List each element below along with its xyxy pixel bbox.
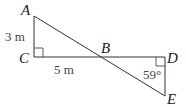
label-c: C [19, 50, 30, 66]
measure-ac: 3 m [5, 29, 25, 44]
label-b: B [101, 40, 110, 56]
label-a: A [20, 2, 31, 18]
right-angle-marker-d [156, 57, 165, 66]
label-e: E [166, 91, 176, 107]
label-d: D [166, 50, 178, 66]
triangle-diagram: A B C D E 3 m 5 m 59° [0, 0, 186, 107]
segment-ae [34, 16, 165, 96]
measure-cb: 5 m [54, 62, 74, 77]
measure-angle-e: 59° [143, 67, 161, 82]
right-angle-marker-c [34, 48, 43, 57]
